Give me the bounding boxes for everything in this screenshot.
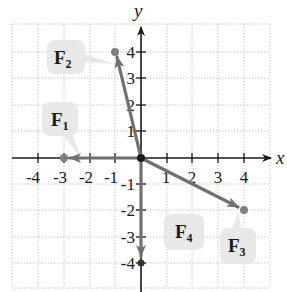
label-callouts (42, 40, 256, 264)
svg-text:3: 3 (127, 69, 136, 88)
f4-endpoint (138, 260, 145, 267)
svg-text:-2: -2 (121, 201, 135, 220)
origin-point (137, 154, 145, 162)
y-axis-label: y (132, 0, 143, 21)
vectors (70, 57, 238, 256)
f1-endpoint (60, 154, 68, 162)
vector-diagram: -4 -3 -2 -1 1 2 3 4 4 3 2 1 -1 -2 -3 -4 … (0, 0, 287, 292)
svg-text:-1: -1 (104, 168, 118, 187)
svg-text:3: 3 (214, 168, 223, 187)
f2-endpoint (111, 48, 119, 56)
svg-text:-4: -4 (26, 168, 41, 187)
vector-f3 (141, 158, 238, 207)
svg-text:-4: -4 (121, 254, 136, 273)
svg-text:-1: -1 (121, 175, 135, 194)
svg-text:-3: -3 (121, 228, 135, 247)
svg-text:-2: -2 (79, 168, 93, 187)
x-axis-label: x (275, 147, 285, 168)
svg-text:-3: -3 (53, 168, 67, 187)
svg-text:4: 4 (240, 168, 249, 187)
f3-endpoint (240, 206, 248, 214)
svg-text:4: 4 (127, 43, 136, 62)
